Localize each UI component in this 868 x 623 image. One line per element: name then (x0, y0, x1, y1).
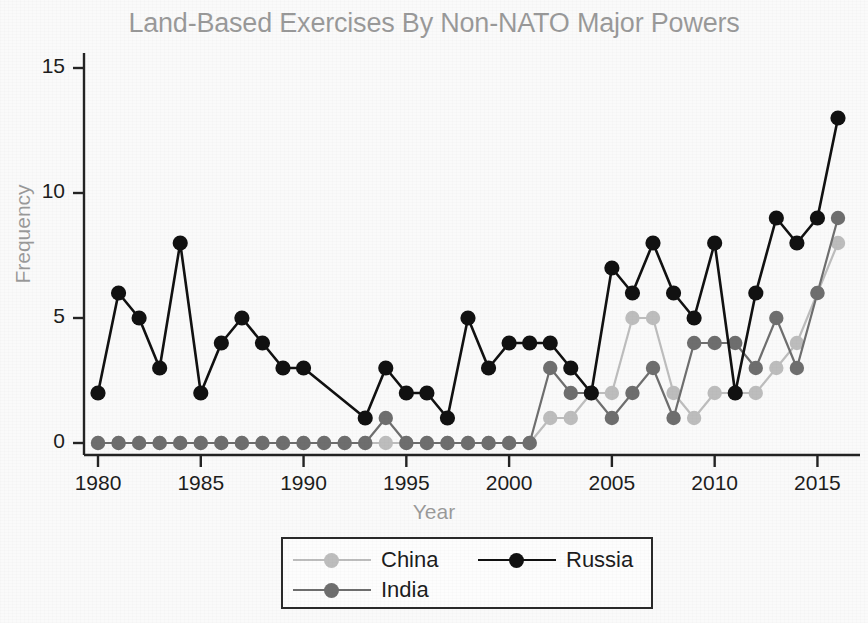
data-point (604, 260, 619, 275)
data-point (666, 411, 680, 425)
data-point (728, 385, 743, 400)
data-point (687, 336, 701, 350)
legend-swatch-russia (478, 551, 556, 569)
x-tick-label: 1995 (356, 471, 456, 495)
data-point (440, 436, 454, 450)
data-point (317, 436, 331, 450)
data-point (234, 310, 249, 325)
data-point (235, 436, 249, 450)
data-point (564, 386, 578, 400)
data-point (173, 235, 188, 250)
y-tick-label: 5 (0, 304, 65, 328)
legend-label-india: India (371, 577, 429, 603)
legend-entry-china: China (293, 547, 438, 573)
data-point (296, 360, 311, 375)
data-point (214, 436, 228, 450)
data-point (790, 361, 804, 375)
data-point (748, 285, 763, 300)
data-point (605, 386, 619, 400)
data-point (646, 311, 660, 325)
data-point (666, 285, 681, 300)
data-point (111, 436, 125, 450)
data-point (625, 311, 639, 325)
data-point (255, 335, 270, 350)
y-tick-label: 10 (0, 179, 65, 203)
data-point (399, 385, 414, 400)
data-point (584, 385, 599, 400)
legend-swatch-india (293, 581, 371, 599)
data-point (296, 436, 310, 450)
data-point (379, 436, 393, 450)
data-point (830, 110, 845, 125)
data-point (646, 361, 660, 375)
data-point (687, 411, 701, 425)
legend-entry-russia: Russia (478, 547, 633, 573)
data-point (687, 310, 702, 325)
x-tick-label: 2005 (562, 471, 662, 495)
x-tick-label: 2015 (767, 471, 867, 495)
data-point (378, 360, 393, 375)
data-point (132, 436, 146, 450)
data-point (132, 310, 147, 325)
data-point (502, 436, 516, 450)
data-point (707, 386, 721, 400)
data-point (645, 235, 660, 250)
x-tick-label: 1990 (254, 471, 354, 495)
data-point (419, 385, 434, 400)
data-point (481, 360, 496, 375)
data-point (543, 335, 558, 350)
data-point (481, 436, 495, 450)
data-point (214, 335, 229, 350)
data-point (707, 235, 722, 250)
y-tick-label: 0 (0, 429, 65, 453)
data-point (460, 310, 475, 325)
data-point (789, 235, 804, 250)
legend-label-russia: Russia (556, 547, 633, 573)
data-point (420, 436, 434, 450)
data-point (194, 436, 208, 450)
data-point (543, 411, 557, 425)
data-point (625, 386, 639, 400)
data-point (275, 360, 290, 375)
plot-background (0, 0, 868, 623)
x-tick-label: 2000 (459, 471, 559, 495)
data-point (749, 386, 763, 400)
data-point (769, 311, 783, 325)
data-point (563, 360, 578, 375)
data-point (440, 410, 455, 425)
data-point (810, 286, 824, 300)
data-point (152, 360, 167, 375)
data-point (358, 436, 372, 450)
x-tick-label: 1985 (151, 471, 251, 495)
data-point (152, 436, 166, 450)
plot-canvas (0, 0, 868, 623)
data-point (810, 210, 825, 225)
data-point (90, 385, 105, 400)
data-point (379, 411, 393, 425)
data-point (91, 436, 105, 450)
data-point (543, 361, 557, 375)
legend-swatch-china (293, 551, 371, 569)
data-point (749, 361, 763, 375)
data-point (276, 436, 290, 450)
legend-label-china: China (371, 547, 438, 573)
data-point (769, 361, 783, 375)
data-point (173, 436, 187, 450)
data-point (564, 411, 578, 425)
data-point (111, 285, 126, 300)
data-point (502, 335, 517, 350)
y-tick-label: 15 (0, 54, 65, 78)
data-point (399, 436, 413, 450)
data-point (522, 335, 537, 350)
chart-figure: Land-Based Exercises By Non-NATO Major P… (0, 0, 868, 623)
data-point (255, 436, 269, 450)
legend-entry-india: India (293, 577, 429, 603)
data-point (831, 211, 845, 225)
x-tick-label: 2010 (665, 471, 765, 495)
chart-legend: China India Russia (281, 537, 653, 609)
data-point (193, 385, 208, 400)
data-point (625, 285, 640, 300)
data-point (605, 411, 619, 425)
data-point (358, 410, 373, 425)
data-point (707, 336, 721, 350)
